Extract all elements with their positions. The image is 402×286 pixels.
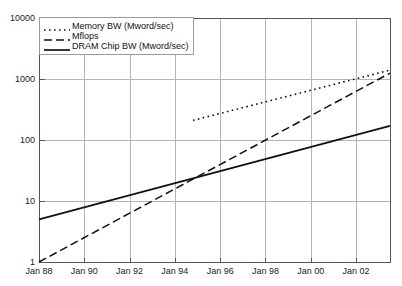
legend-item-label: DRAM Chip BW (Mword/sec): [71, 41, 189, 51]
x-tick-label: Jan 96: [207, 266, 234, 276]
x-tick-label: Jan 90: [71, 266, 98, 276]
chart-figure: 100001000100101 Jan 88Jan 90Jan 92Jan 94…: [0, 0, 402, 286]
series-line: [39, 126, 390, 219]
x-tick-label: Jan 02: [343, 266, 370, 276]
x-tick-label: Jan 92: [116, 266, 143, 276]
legend-item: DRAM Chip BW (Mword/sec): [43, 41, 189, 51]
legend-item: Memory BW (Mword/sec): [43, 21, 189, 31]
series-line: [39, 73, 390, 262]
series-line: [193, 70, 390, 120]
y-tick-label: 1000: [15, 74, 35, 84]
chart-legend: Memory BW (Mword/sec) Mflops DRAM Chip B…: [39, 17, 194, 55]
series-lines: [39, 70, 390, 262]
y-tick-label: 10000: [10, 13, 35, 23]
legend-item: Mflops: [43, 31, 189, 41]
x-tick-label: Jan 94: [161, 266, 188, 276]
x-tick-label: Jan 00: [297, 266, 324, 276]
legend-item-label: Mflops: [71, 31, 99, 41]
legend-swatch-dashed-icon: [43, 31, 71, 41]
y-tick-label: 10: [25, 196, 35, 206]
legend-item-label: Memory BW (Mword/sec): [71, 21, 174, 31]
legend-swatch-solid-icon: [43, 41, 71, 51]
x-tick-label: Jan 88: [25, 266, 52, 276]
legend-swatch-dotted-icon: [43, 21, 71, 31]
y-tick-label: 100: [20, 135, 35, 145]
x-tick-label: Jan 98: [252, 266, 279, 276]
